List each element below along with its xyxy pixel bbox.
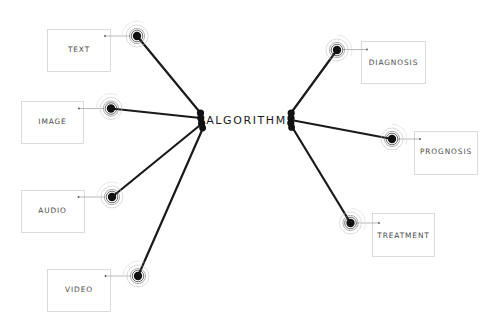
input-node-text[interactable]: TEXT [48,21,153,72]
spoke-treatment [292,126,351,223]
leader-dot [104,35,106,37]
leader-dot [105,275,107,277]
spoke-text [137,36,201,113]
leader-dot [78,196,80,198]
input-node-audio[interactable]: AUDIO [22,182,128,233]
spokes [111,36,392,276]
input-label-text: TEXT [67,45,90,54]
output-node-prognosis[interactable]: PROGNOSIS [377,124,478,175]
output-label-prognosis: PROGNOSIS [420,147,472,156]
input-node-image[interactable]: IMAGE [22,94,127,144]
input-label-video: VIDEO [65,285,93,294]
output-node-treatment[interactable]: TREATMENT [336,208,435,257]
node-target-icon [322,35,352,65]
leader-dot [378,222,380,224]
output-label-treatment: TREATMENT [376,231,430,240]
output-node-diagnosis[interactable]: DIAGNOSIS [322,35,426,84]
input-label-audio: AUDIO [38,206,67,215]
spoke-prognosis [291,120,392,139]
leader-dot [366,49,368,51]
algorithm-hub-diagram: ALGORITHM TEXT IMAGE AUDIO [0,0,496,324]
output-label-diagnosis: DIAGNOSIS [369,58,419,67]
spoke-image [111,109,201,119]
input-node-video[interactable]: VIDEO [48,261,154,312]
leader-dot [78,108,80,110]
leader-dot [419,138,421,140]
spoke-diagnosis [291,50,337,113]
hub-left-connector-icon [197,109,206,131]
hub-label: ALGORITHM [206,114,287,127]
hub: ALGORITHM [197,109,295,131]
input-label-image: IMAGE [38,117,66,126]
hub-right-connector-icon [287,109,295,130]
